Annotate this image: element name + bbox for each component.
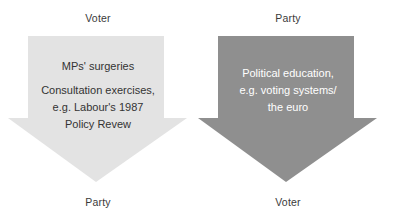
flow-target-label-party: Party — [3, 196, 193, 208]
flow-voter-to-party: Voter MPs' surgeries Consultation exerci… — [3, 0, 193, 224]
down-arrow-light-shape — [3, 36, 193, 184]
down-arrow-light-icon — [3, 36, 193, 184]
flow-source-label-party: Party — [193, 12, 383, 24]
flow-target-label-voter: Voter — [193, 196, 383, 208]
flow-source-label-voter: Voter — [3, 12, 193, 24]
flow-party-to-voter: Party Political education, e.g. voting s… — [193, 0, 383, 224]
communication-flow-diagram: Voter MPs' surgeries Consultation exerci… — [0, 0, 397, 224]
down-arrow-dark-shape — [193, 36, 383, 184]
down-arrow-dark-icon — [193, 36, 383, 184]
